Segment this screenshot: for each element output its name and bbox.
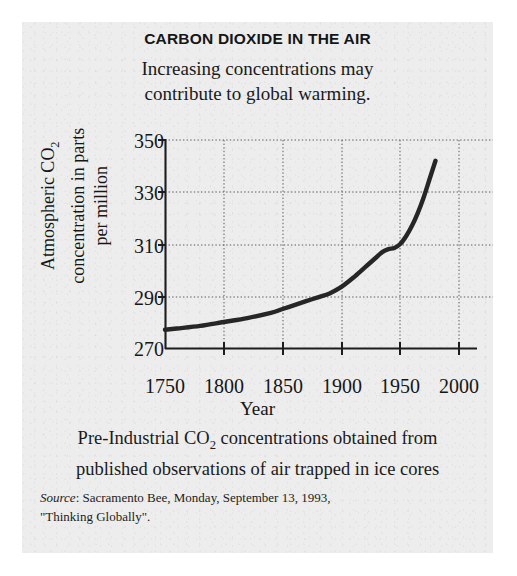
figure-caption-line-1: Pre-Industrial CO2 concentrations obtain… [26,426,489,457]
figure-caption-line-2: published observations of air trapped in… [26,457,489,481]
source-note-text: : Sacramento Bee, Monday, September 13, … [76,490,331,505]
source-note-line-1: Source: Sacramento Bee, Monday, Septembe… [40,488,480,507]
co2-line-chart [22,22,493,382]
figure-caption: Pre-Industrial CO2 concentrations obtain… [26,426,489,481]
source-note-line-2: "Thinking Globally". [40,507,480,526]
grid-horizontal [165,140,493,297]
source-note: Source: Sacramento Bee, Monday, Septembe… [40,488,480,526]
x-axis-title: Year [22,398,493,420]
source-label: Source [40,490,76,505]
figure-panel: CARBON DIOXIDE IN THE AIR Increasing con… [22,22,493,553]
